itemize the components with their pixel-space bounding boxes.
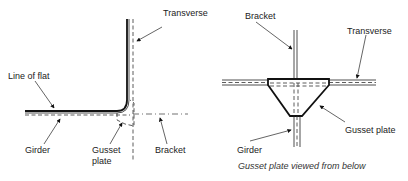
label-girder: Girder [25,145,50,155]
girder-leader-right [250,130,291,141]
label-gusset-line1: Gusset [92,145,121,155]
label-gusset-plate-right: Gusset plate [345,125,396,135]
transverse-leader-right [357,35,366,78]
line-of-flat-leader [35,81,54,108]
caption: Gusset plate viewed from below [238,161,366,171]
bracket-leader-right [256,22,292,49]
gusset-plate-shape [268,79,329,116]
gusset-leader-right [320,106,345,122]
label-gusset-line2: plate [92,156,112,166]
gusset-plate-leader [110,123,122,144]
label-bracket: Bracket [155,145,186,155]
label-bracket-right: Bracket [245,11,276,21]
girder-leader [44,119,60,144]
gusset-plate-diagram: Transverse Line of flat Girder Gusset pl… [0,0,408,181]
bracket-leader [160,118,167,144]
left-view: Transverse Line of flat Girder Gusset pl… [8,8,208,166]
label-transverse-right: Transverse [347,26,392,36]
transverse-leader [137,27,162,41]
right-view: Bracket Transverse Gusset plate Girder G… [222,11,396,171]
label-transverse: Transverse [163,8,208,18]
label-line-of-flat: Line of flat [8,71,50,81]
line-of-flat [25,19,127,111]
line-of-flat-inner [25,19,129,113]
label-girder-right: Girder [237,145,262,155]
